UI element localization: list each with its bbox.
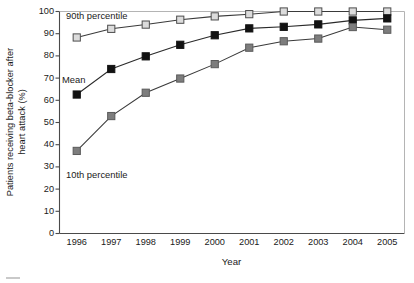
plot-area xyxy=(0,0,414,283)
series-label-10th-percentile: 10th percentile xyxy=(66,170,128,180)
series-label-90th-percentile: 90th percentile xyxy=(66,11,128,21)
data-series-group xyxy=(73,8,391,155)
caption-artifact xyxy=(6,277,20,279)
axis-lines xyxy=(60,12,405,234)
figure-container: Patients receiving beta-blocker after he… xyxy=(0,0,414,283)
tick-marks xyxy=(56,12,60,234)
series-label-mean: Mean xyxy=(62,75,85,85)
series-10th-percentile xyxy=(73,23,391,154)
